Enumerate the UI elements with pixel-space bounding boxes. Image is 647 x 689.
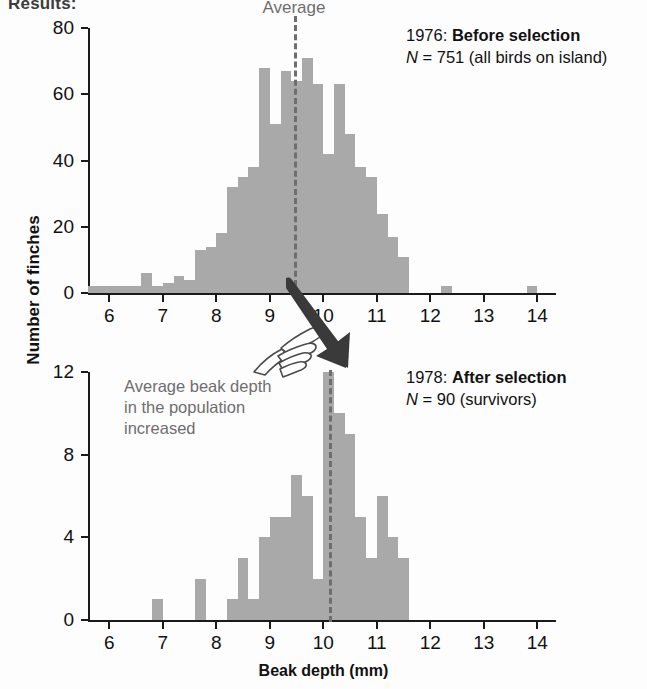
average-line-1978 bbox=[329, 370, 332, 622]
y-axis-tick-label: 8 bbox=[28, 444, 74, 466]
histogram-bar bbox=[238, 558, 249, 620]
histogram-bar bbox=[345, 434, 356, 620]
average-line-1976 bbox=[294, 16, 297, 295]
histogram-bar bbox=[398, 257, 409, 293]
histogram-bar bbox=[88, 286, 99, 293]
x-axis-tick-label: 14 bbox=[527, 305, 548, 327]
y-axis-line bbox=[88, 372, 90, 620]
histogram-bar bbox=[120, 286, 131, 293]
x-axis-tick bbox=[483, 622, 485, 629]
histogram-bar bbox=[291, 475, 302, 620]
x-axis-tick-label: 14 bbox=[527, 632, 548, 654]
series-year-1978: 1978 bbox=[406, 368, 443, 386]
histogram-bar bbox=[281, 71, 292, 293]
y-axis-tick-label: 80 bbox=[28, 17, 74, 39]
arrow-down-right-icon bbox=[286, 276, 362, 372]
x-axis-tick-label: 8 bbox=[211, 305, 222, 327]
y-axis-tick bbox=[81, 226, 88, 228]
histogram-bar bbox=[163, 283, 174, 293]
histogram-bar bbox=[248, 167, 259, 293]
y-axis-tick-label: 12 bbox=[28, 361, 74, 383]
x-axis-tick-label: 9 bbox=[265, 632, 276, 654]
x-axis-tick bbox=[376, 622, 378, 629]
series-year-1976: 1976 bbox=[406, 26, 443, 44]
series-n-symbol-1976: N bbox=[406, 48, 418, 66]
histogram-bar bbox=[313, 579, 324, 620]
x-axis-tick bbox=[536, 622, 538, 629]
histogram-bar bbox=[388, 537, 399, 620]
histogram-bar bbox=[238, 177, 249, 293]
finch-beak-depth-figure: Results: Number of finches Beak depth (m… bbox=[0, 0, 647, 689]
histogram-bar bbox=[441, 286, 452, 293]
x-axis-tick-label: 6 bbox=[104, 632, 115, 654]
chart-panel-1976: 02040608067891011121314 Average 1976: Be… bbox=[88, 28, 548, 293]
histogram-bar bbox=[216, 233, 227, 293]
histogram-bar bbox=[281, 517, 292, 620]
series-condition-1976: Before selection bbox=[452, 26, 580, 44]
x-axis-tick bbox=[215, 622, 217, 629]
histogram-bar bbox=[302, 496, 313, 620]
y-axis-tick bbox=[81, 619, 88, 621]
histogram-bar bbox=[141, 273, 152, 293]
series-n-symbol-1978: N bbox=[406, 390, 418, 408]
histogram-bar bbox=[184, 280, 195, 293]
histogram-bar bbox=[152, 286, 163, 293]
histogram-bar bbox=[248, 599, 259, 620]
x-axis-tick bbox=[162, 622, 164, 629]
x-axis-tick-label: 12 bbox=[420, 305, 441, 327]
histogram-bar bbox=[377, 214, 388, 294]
x-axis-tick-label: 8 bbox=[211, 632, 222, 654]
y-axis-tick-label: 40 bbox=[28, 150, 74, 172]
x-axis-tick-label: 12 bbox=[420, 632, 441, 654]
x-axis-tick bbox=[215, 295, 217, 302]
y-axis-tick bbox=[81, 93, 88, 95]
callout-text: Average beak depth in the population inc… bbox=[124, 376, 274, 439]
y-axis-tick bbox=[81, 454, 88, 456]
series-condition-1978: After selection bbox=[452, 368, 567, 386]
x-axis-label: Beak depth (mm) bbox=[0, 662, 647, 680]
histogram-bar bbox=[334, 413, 345, 620]
series-n-detail-1978: (survivors) bbox=[460, 390, 537, 408]
histogram-bar bbox=[302, 58, 313, 293]
y-axis-tick bbox=[81, 292, 88, 294]
histogram-bar bbox=[527, 286, 538, 293]
histogram-bar bbox=[366, 558, 377, 620]
series-n-value-1978: 90 bbox=[437, 390, 455, 408]
y-axis-tick-label: 4 bbox=[28, 526, 74, 548]
histogram-bar bbox=[227, 599, 238, 620]
histogram-bar bbox=[206, 247, 217, 293]
x-axis-tick bbox=[269, 295, 271, 302]
histogram-bar bbox=[174, 276, 185, 293]
histogram-bar bbox=[131, 286, 142, 293]
histogram-bar bbox=[377, 496, 388, 620]
series-n-detail-1976: (all birds on island) bbox=[469, 48, 607, 66]
histogram-bar bbox=[323, 154, 334, 293]
y-axis-tick-label: 0 bbox=[28, 282, 74, 304]
x-axis-tick bbox=[429, 295, 431, 302]
x-axis-tick-label: 11 bbox=[367, 632, 387, 654]
x-axis-tick-label: 11 bbox=[367, 305, 387, 327]
histogram-bar bbox=[345, 134, 356, 293]
histogram-bar bbox=[259, 68, 270, 293]
x-axis-tick-label: 7 bbox=[158, 305, 169, 327]
x-axis-tick bbox=[429, 622, 431, 629]
histogram-bar bbox=[334, 84, 345, 293]
series-note-1976: 1976: Before selection N = 751 (all bird… bbox=[406, 24, 607, 68]
histogram-bar bbox=[355, 517, 366, 620]
histogram-bar bbox=[313, 84, 324, 293]
x-axis-tick bbox=[269, 622, 271, 629]
series-n-value-1976: 751 bbox=[437, 48, 465, 66]
y-axis-tick-label: 20 bbox=[28, 216, 74, 238]
average-line-label-1976: Average bbox=[262, 0, 325, 18]
histogram-bar bbox=[270, 124, 281, 293]
y-axis-tick bbox=[81, 371, 88, 373]
x-axis-tick-label: 6 bbox=[104, 305, 115, 327]
x-axis-tick bbox=[162, 295, 164, 302]
x-axis-tick bbox=[376, 295, 378, 302]
histogram-bar bbox=[366, 177, 377, 293]
x-axis-tick bbox=[322, 622, 324, 629]
x-axis-tick-label: 13 bbox=[473, 305, 494, 327]
histogram-bar bbox=[259, 537, 270, 620]
x-axis-tick-label: 10 bbox=[313, 632, 334, 654]
x-axis-tick bbox=[108, 622, 110, 629]
